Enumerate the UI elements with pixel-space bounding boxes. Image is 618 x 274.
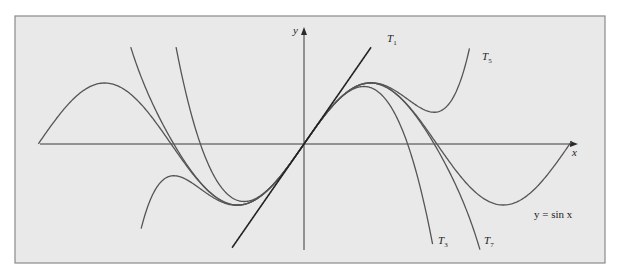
y-axis-label: y	[292, 24, 298, 36]
x-axis-label: x	[571, 146, 577, 158]
label-sin: y = sin x	[534, 208, 573, 220]
figure-frame	[15, 16, 605, 263]
taylor-polynomials-figure: x y T1 T5 T3 T7 y = sin x	[0, 0, 618, 274]
